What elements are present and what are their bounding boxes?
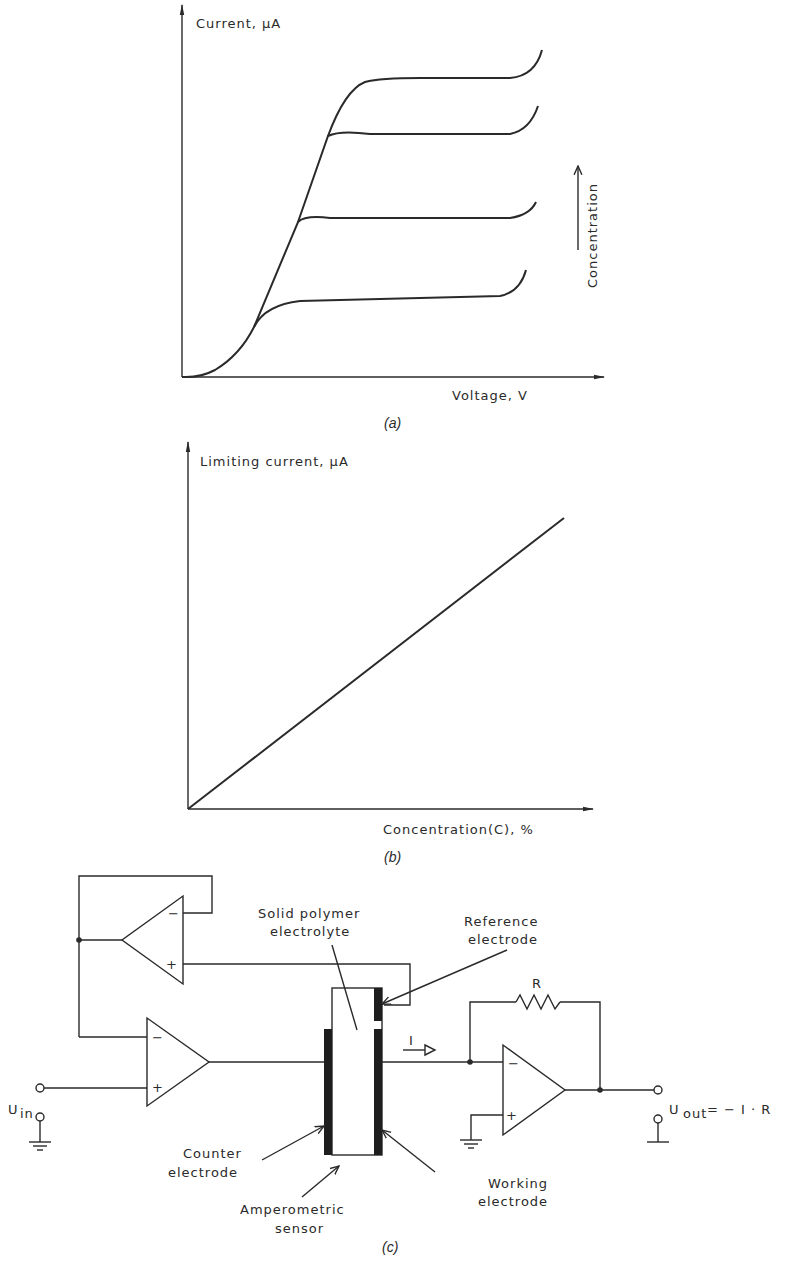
control-minus: − (152, 1030, 163, 1045)
u-out-ground-terminal (654, 1115, 662, 1123)
x-axis-label-a: Voltage, V (452, 388, 528, 403)
solid-polymer-label-2: electrolyte (270, 924, 350, 939)
ground-icon-2 (460, 1140, 482, 1148)
caption-a: (a) (384, 415, 401, 431)
tia-minus: − (508, 1056, 519, 1071)
curve-1 (182, 270, 526, 377)
u-in-subscript: in (20, 1106, 34, 1121)
u-out-label: U (669, 1102, 680, 1117)
working-leader (382, 1130, 435, 1172)
working-electrode (374, 1029, 382, 1155)
working-label-2: electrode (478, 1194, 548, 1209)
u-out-subscript: out (683, 1106, 707, 1121)
figure-a: Current, µA Voltage, V (a) Concentration (182, 5, 604, 431)
y-axis-label-a: Current, µA (196, 16, 281, 31)
figure-b: Limiting current, µA Concentration(C), %… (188, 442, 593, 865)
junction-output (597, 1087, 603, 1093)
ground-icon (29, 1142, 51, 1150)
counter-label-1: Counter (183, 1146, 242, 1161)
sensor-label-1: Amperometric (240, 1202, 345, 1217)
resistor-icon (516, 995, 560, 1009)
wire-r-left (470, 1002, 516, 1062)
u-out-equation: = − I · R (707, 1102, 771, 1117)
counter-leader (262, 1126, 324, 1160)
u-in-ground-terminal (36, 1113, 44, 1121)
caption-b: (b) (384, 849, 401, 865)
u-out-terminal (654, 1086, 662, 1094)
current-arrow-icon (403, 1045, 435, 1055)
reference-electrode (374, 988, 382, 1021)
reference-label-1: Reference (464, 914, 538, 929)
counter-electrode (324, 1029, 332, 1155)
concentration-label: Concentration (585, 183, 600, 288)
u-in-label: U (8, 1102, 19, 1117)
reference-label-2: electrode (468, 932, 538, 947)
curve-2 (254, 202, 536, 327)
figure-c-circuit: − + − + U in Solid polymer electrolyte R… (8, 876, 771, 1255)
y-axis-label-b: Limiting current, µA (200, 454, 349, 469)
solid-polymer-label-1: Solid polymer (258, 906, 360, 921)
u-in-terminal (36, 1084, 44, 1092)
sensor-label-2: sensor (275, 1221, 324, 1236)
buffer-minus: − (168, 906, 179, 921)
resistor-label: R (532, 976, 542, 991)
curve-4 (328, 50, 542, 136)
working-label-1: Working (488, 1176, 548, 1191)
limiting-current-line (188, 518, 564, 809)
buffer-plus: + (166, 957, 177, 972)
x-axis-label-b: Concentration(C), % (383, 822, 534, 837)
figure-canvas: Current, µA Voltage, V (a) Concentration… (0, 0, 786, 1273)
sensor-leader (302, 1166, 339, 1197)
current-label: I (409, 1033, 414, 1048)
tia-plus: + (506, 1108, 517, 1123)
control-plus: + (152, 1080, 163, 1095)
counter-label-2: electrode (168, 1165, 238, 1180)
caption-c: (c) (382, 1239, 398, 1255)
wire-noninverting (471, 1115, 503, 1140)
wire-r-right (560, 1002, 600, 1090)
reference-leader (382, 950, 507, 1004)
